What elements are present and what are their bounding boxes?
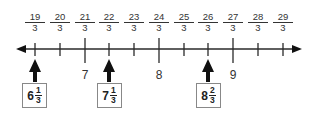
tick-label: 243 — [149, 12, 169, 33]
mixed-whole: 6 — [27, 89, 34, 103]
mixed-denominator: 3 — [210, 96, 215, 105]
axis-arrow-right-icon — [292, 45, 302, 53]
tick-label: 203 — [50, 12, 70, 33]
mixed-denominator: 3 — [36, 96, 41, 105]
mixed-denominator: 3 — [111, 96, 116, 105]
tick-label: 283 — [248, 12, 268, 33]
mixed-whole: 8 — [201, 89, 208, 103]
major-ticks — [85, 38, 233, 63]
marker-arrow-icon — [103, 59, 115, 82]
tick-label: 293 — [273, 12, 293, 33]
tick-label: 233 — [124, 12, 144, 33]
whole-number-label: 9 — [226, 68, 240, 82]
whole-number-label: 8 — [152, 68, 166, 82]
mixed-number-box: 7 13 — [97, 83, 122, 108]
mixed-number-box: 8 23 — [196, 83, 221, 108]
marker-arrow-icon — [29, 59, 41, 82]
whole-number-label: 7 — [78, 68, 92, 82]
tick-label: 213 — [75, 12, 95, 33]
tick-label: 253 — [174, 12, 194, 33]
tick-label: 223 — [99, 12, 119, 33]
mixed-whole: 7 — [102, 89, 109, 103]
axis-arrow-left-icon — [16, 45, 26, 53]
tick-label: 273 — [223, 12, 243, 33]
tick-label: 193 — [25, 12, 45, 33]
tick-label: 263 — [198, 12, 218, 33]
mixed-number-box: 6 13 — [22, 83, 47, 108]
marker-arrow-icon — [202, 59, 214, 82]
